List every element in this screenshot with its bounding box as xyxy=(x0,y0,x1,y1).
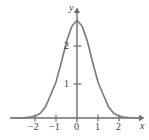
x-axis-label: x xyxy=(140,121,144,131)
y-axis-label: y xyxy=(69,3,73,13)
y-tick-label-2: 2 xyxy=(64,41,69,51)
x-tick-label-0: 0 xyxy=(74,122,79,132)
y-tick-label-1: 1 xyxy=(64,79,69,89)
x-tick-label-2: 2 xyxy=(116,122,121,132)
x-tick-label--1: −1 xyxy=(49,122,60,132)
bell-curve-figure: −2 −1 0 1 2 2 1 y x xyxy=(0,0,149,140)
x-tick-label--2: −2 xyxy=(28,122,39,132)
x-tick-label-1: 1 xyxy=(95,122,100,132)
graph-canvas xyxy=(0,0,149,140)
y-axis-arrow-icon xyxy=(74,8,80,14)
